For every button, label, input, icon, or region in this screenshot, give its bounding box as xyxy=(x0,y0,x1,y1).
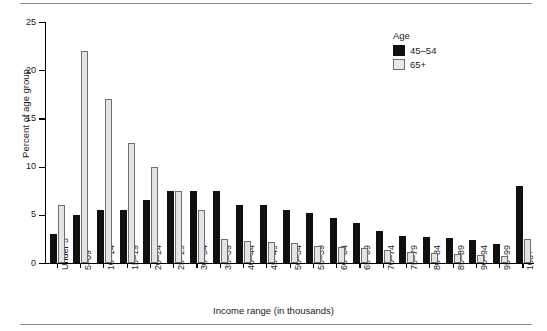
bar-1-6 xyxy=(198,210,205,263)
x-tick xyxy=(243,264,244,268)
legend-label: 65+ xyxy=(410,59,426,70)
bar-0-0 xyxy=(50,234,57,263)
bar-0-18 xyxy=(469,240,476,263)
bar-1-13 xyxy=(361,248,368,263)
bar-1-15 xyxy=(407,252,414,263)
x-tick xyxy=(336,264,337,268)
bar-0-2 xyxy=(97,210,104,263)
bar-1-5 xyxy=(175,191,182,263)
bar-1-2 xyxy=(105,99,112,263)
bar-1-17 xyxy=(454,254,461,263)
legend-title: Age xyxy=(393,30,436,41)
bar-0-10 xyxy=(283,210,290,263)
x-tick xyxy=(80,264,81,268)
bar-0-8 xyxy=(236,205,243,263)
bar-1-4 xyxy=(151,167,158,263)
x-tick xyxy=(499,264,500,268)
y-tick-label: 5 xyxy=(0,210,36,219)
y-tick-label: 15 xyxy=(0,114,36,123)
x-tick xyxy=(359,264,360,268)
bar-1-16 xyxy=(431,253,438,263)
bar-0-17 xyxy=(446,238,453,263)
bar-1-10 xyxy=(291,243,298,263)
x-tick xyxy=(57,264,58,268)
bar-1-20 xyxy=(524,239,531,263)
legend-swatch-icon xyxy=(393,45,405,56)
y-tick-label: 20 xyxy=(0,66,36,75)
x-tick xyxy=(476,264,477,268)
y-tick-label: 0 xyxy=(0,259,36,268)
legend-entry: 45–54 xyxy=(393,45,436,56)
bar-0-7 xyxy=(213,191,220,263)
bar-1-12 xyxy=(338,247,345,263)
y-tick xyxy=(39,263,45,264)
bar-1-11 xyxy=(314,246,321,263)
bar-0-1 xyxy=(73,215,80,263)
x-tick xyxy=(406,264,407,268)
y-tick xyxy=(39,118,45,119)
bar-0-16 xyxy=(423,237,430,263)
bar-0-3 xyxy=(120,210,127,263)
bar-1-9 xyxy=(268,242,275,263)
x-tick xyxy=(127,264,128,268)
y-tick-label: 25 xyxy=(0,18,36,27)
x-tick xyxy=(522,264,523,268)
legend-swatch-icon xyxy=(393,59,405,70)
bar-0-4 xyxy=(143,200,150,263)
bar-0-14 xyxy=(376,231,383,263)
bottom-divider xyxy=(20,324,532,325)
legend-entries: 45–5465+ xyxy=(393,45,436,70)
legend-entry: 65+ xyxy=(393,59,436,70)
bar-0-20 xyxy=(516,186,523,263)
bar-1-0 xyxy=(58,205,65,263)
plot-area xyxy=(46,22,533,263)
bar-1-3 xyxy=(128,143,135,264)
bar-0-13 xyxy=(353,223,360,263)
bar-1-8 xyxy=(244,241,251,263)
x-tick xyxy=(313,264,314,268)
bar-0-19 xyxy=(493,244,500,263)
x-tick xyxy=(150,264,151,268)
x-tick xyxy=(266,264,267,268)
x-axis-label: Income range (in thousands) xyxy=(0,305,547,316)
x-tick xyxy=(220,264,221,268)
bar-0-15 xyxy=(399,236,406,263)
chart-figure: 0510152025 Under 55–0910–1415–1920–2425–… xyxy=(0,0,547,331)
bar-0-11 xyxy=(306,213,313,263)
bar-1-18 xyxy=(477,255,484,263)
bar-1-1 xyxy=(81,51,88,263)
y-tick xyxy=(39,167,45,168)
x-tick xyxy=(173,264,174,268)
y-axis-label: Percent of age group xyxy=(20,44,31,184)
top-divider xyxy=(20,3,532,4)
y-tick xyxy=(39,70,45,71)
bar-1-7 xyxy=(221,239,228,263)
bar-0-12 xyxy=(330,218,337,263)
legend-label: 45–54 xyxy=(410,45,436,56)
x-tick xyxy=(383,264,384,268)
y-tick xyxy=(39,22,45,23)
bar-0-6 xyxy=(190,191,197,263)
bar-0-5 xyxy=(167,191,174,263)
bar-1-19 xyxy=(501,256,508,263)
y-tick-label: 10 xyxy=(0,162,36,171)
bar-0-9 xyxy=(260,205,267,263)
x-tick xyxy=(290,264,291,268)
legend: Age 45–5465+ xyxy=(393,30,436,73)
x-tick xyxy=(103,264,104,268)
x-tick xyxy=(429,264,430,268)
x-tick xyxy=(196,264,197,268)
bar-1-14 xyxy=(384,250,391,263)
x-tick xyxy=(453,264,454,268)
y-tick xyxy=(39,215,45,216)
